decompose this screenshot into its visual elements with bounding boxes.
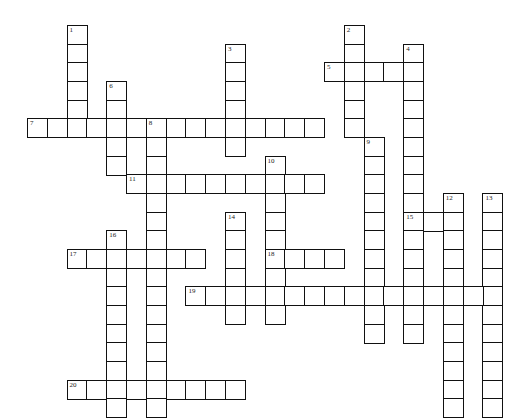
letter-input[interactable] xyxy=(266,306,285,324)
letter-input[interactable] xyxy=(404,157,423,175)
crossword-cell[interactable] xyxy=(403,305,424,325)
crossword-cell[interactable]: 4 xyxy=(403,44,424,64)
crossword-cell[interactable]: 10 xyxy=(265,156,286,176)
letter-input[interactable] xyxy=(365,250,384,268)
letter-input[interactable] xyxy=(345,119,364,137)
letter-input[interactable] xyxy=(404,287,423,305)
letter-input[interactable] xyxy=(107,269,126,287)
letter-input[interactable] xyxy=(147,325,166,343)
letter-input[interactable] xyxy=(226,250,245,268)
letter-input[interactable] xyxy=(167,119,186,137)
letter-input[interactable] xyxy=(365,287,384,305)
letter-input[interactable] xyxy=(266,194,285,212)
crossword-cell[interactable] xyxy=(482,398,503,418)
crossword-cell[interactable] xyxy=(86,249,107,269)
letter-input[interactable] xyxy=(365,231,384,249)
crossword-cell[interactable] xyxy=(245,174,266,194)
letter-input[interactable] xyxy=(107,231,126,249)
letter-input[interactable] xyxy=(68,82,87,100)
letter-input[interactable] xyxy=(404,194,423,212)
letter-input[interactable] xyxy=(444,250,463,268)
crossword-cell[interactable] xyxy=(482,230,503,250)
letter-input[interactable] xyxy=(68,63,87,81)
letter-input[interactable] xyxy=(266,119,285,137)
crossword-cell[interactable] xyxy=(205,380,226,400)
letter-input[interactable] xyxy=(365,325,384,343)
letter-input[interactable] xyxy=(107,325,126,343)
crossword-cell[interactable] xyxy=(225,268,246,288)
letter-input[interactable] xyxy=(167,250,186,268)
letter-input[interactable] xyxy=(444,381,463,399)
letter-input[interactable] xyxy=(483,194,502,212)
crossword-cell[interactable] xyxy=(364,324,385,344)
crossword-cell[interactable] xyxy=(364,305,385,325)
crossword-cell[interactable] xyxy=(225,137,246,157)
letter-input[interactable] xyxy=(167,175,186,193)
crossword-cell[interactable] xyxy=(67,100,88,120)
letter-input[interactable] xyxy=(186,381,205,399)
letter-input[interactable] xyxy=(147,119,166,137)
letter-input[interactable] xyxy=(107,157,126,175)
letter-input[interactable] xyxy=(483,381,502,399)
letter-input[interactable] xyxy=(226,175,245,193)
letter-input[interactable] xyxy=(226,381,245,399)
crossword-cell[interactable] xyxy=(443,361,464,381)
crossword-cell[interactable] xyxy=(482,380,503,400)
crossword-cell[interactable] xyxy=(423,212,444,232)
letter-input[interactable] xyxy=(483,250,502,268)
letter-input[interactable] xyxy=(68,250,87,268)
crossword-cell[interactable] xyxy=(364,174,385,194)
letter-input[interactable] xyxy=(107,399,126,417)
letter-input[interactable] xyxy=(127,119,146,137)
crossword-cell[interactable] xyxy=(225,118,246,138)
letter-input[interactable] xyxy=(365,306,384,324)
crossword-cell[interactable] xyxy=(463,286,484,306)
crossword-cell[interactable] xyxy=(403,137,424,157)
crossword-cell[interactable] xyxy=(324,286,345,306)
crossword-cell[interactable] xyxy=(403,324,424,344)
letter-input[interactable] xyxy=(444,362,463,380)
crossword-cell[interactable] xyxy=(403,81,424,101)
crossword-cell[interactable] xyxy=(67,62,88,82)
crossword-cell[interactable] xyxy=(245,118,266,138)
letter-input[interactable] xyxy=(404,231,423,249)
crossword-cell[interactable] xyxy=(443,268,464,288)
letter-input[interactable] xyxy=(147,175,166,193)
crossword-cell[interactable] xyxy=(185,118,206,138)
letter-input[interactable] xyxy=(444,343,463,361)
crossword-cell[interactable] xyxy=(265,305,286,325)
letter-input[interactable] xyxy=(147,269,166,287)
letter-input[interactable] xyxy=(206,381,225,399)
letter-input[interactable] xyxy=(285,175,304,193)
letter-input[interactable] xyxy=(483,231,502,249)
crossword-cell[interactable] xyxy=(284,118,305,138)
letter-input[interactable] xyxy=(444,231,463,249)
letter-input[interactable] xyxy=(147,194,166,212)
letter-input[interactable] xyxy=(266,250,285,268)
crossword-cell[interactable]: 16 xyxy=(106,230,127,250)
letter-input[interactable] xyxy=(365,157,384,175)
letter-input[interactable] xyxy=(147,306,166,324)
letter-input[interactable] xyxy=(365,63,384,81)
crossword-cell[interactable] xyxy=(443,398,464,418)
letter-input[interactable] xyxy=(305,287,324,305)
crossword-cell[interactable] xyxy=(106,324,127,344)
crossword-cell[interactable] xyxy=(225,249,246,269)
crossword-cell[interactable] xyxy=(304,249,325,269)
letter-input[interactable] xyxy=(404,213,423,231)
letter-input[interactable] xyxy=(404,82,423,100)
letter-input[interactable] xyxy=(404,306,423,324)
letter-input[interactable] xyxy=(226,45,245,63)
crossword-cell[interactable] xyxy=(265,193,286,213)
letter-input[interactable] xyxy=(345,63,364,81)
letter-input[interactable] xyxy=(404,63,423,81)
crossword-cell[interactable] xyxy=(443,380,464,400)
crossword-cell[interactable] xyxy=(344,286,365,306)
letter-input[interactable] xyxy=(147,381,166,399)
letter-input[interactable] xyxy=(483,306,502,324)
crossword-cell[interactable] xyxy=(126,380,147,400)
crossword-cell[interactable] xyxy=(383,62,404,82)
letter-input[interactable] xyxy=(206,287,225,305)
letter-input[interactable] xyxy=(68,26,87,44)
crossword-cell[interactable] xyxy=(265,174,286,194)
